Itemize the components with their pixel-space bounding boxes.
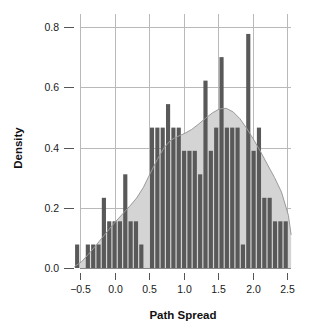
y-axis-title: Density (12, 127, 24, 169)
histogram-bar (171, 128, 175, 268)
x-tick-label: 0.5 (142, 283, 157, 295)
histogram-bar (214, 128, 218, 268)
y-tick-label: 0.4 (44, 142, 59, 154)
x-axis-title: Path Spread (149, 309, 216, 321)
histogram-bar (278, 221, 282, 268)
histogram-bar (219, 57, 223, 268)
histogram-bar (96, 245, 100, 268)
x-tick-label: 2.0 (246, 283, 261, 295)
histogram-bar (139, 245, 143, 268)
histogram-bar (230, 128, 234, 268)
histogram-bar (284, 221, 288, 268)
y-tick-label: 0.2 (44, 202, 59, 214)
histogram-bar (273, 221, 277, 268)
x-tick-label: 1.5 (211, 283, 226, 295)
histogram-bar (198, 174, 202, 268)
histogram-bar (102, 198, 106, 268)
histogram-bar (252, 151, 256, 268)
y-tick-label: 0.8 (44, 21, 59, 33)
histogram-bar (134, 221, 138, 268)
histogram-bar (236, 128, 240, 268)
histogram-bar (246, 34, 250, 268)
histogram-bar (150, 128, 154, 268)
histogram-bar (262, 198, 266, 268)
histogram-bar (161, 128, 165, 268)
histogram-bar (129, 221, 133, 268)
x-tick-label: 0.0 (108, 283, 123, 295)
x-tick-label: 2.5 (280, 283, 295, 295)
histogram-bar (118, 221, 122, 268)
y-tick-label: 0.6 (44, 81, 59, 93)
density-histogram-chart: −0.50.00.51.01.52.02.5 0.00.20.40.60.8 P… (0, 0, 325, 331)
histogram-bar (107, 221, 111, 268)
histogram-bar (225, 128, 229, 268)
histogram-bar (193, 151, 197, 268)
histogram-bar (241, 245, 245, 268)
histogram-bar (123, 174, 127, 268)
histogram-bar (209, 151, 213, 268)
histogram-bar (187, 151, 191, 268)
histogram-bar (177, 128, 181, 268)
y-tick-label: 0.0 (44, 262, 59, 274)
histogram-bar (203, 81, 207, 268)
histogram-bar (182, 151, 186, 268)
chart-canvas: −0.50.00.51.01.52.02.5 0.00.20.40.60.8 P… (0, 0, 325, 331)
histogram-bar (268, 198, 272, 268)
x-tick-label: 1.0 (177, 283, 192, 295)
histogram-bar (166, 104, 170, 268)
x-tick-label: −0.5 (70, 283, 91, 295)
histogram-bar (113, 221, 117, 268)
histogram-bar (155, 128, 159, 268)
